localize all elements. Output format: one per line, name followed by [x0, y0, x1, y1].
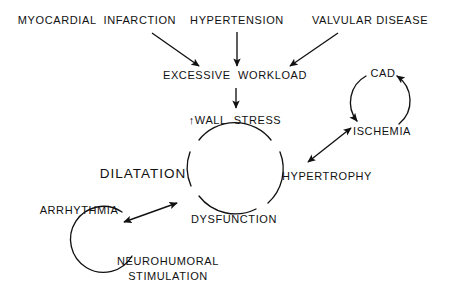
- node-myocardial-infarction: MYOCARDIAL INFARCTION: [18, 14, 176, 26]
- node-neurohumoral-stimulation-line2: STIMULATION: [128, 270, 208, 282]
- node-ischemia: ISCHEMIA: [353, 125, 411, 137]
- edge-mi-to-excessive-workload: [152, 33, 199, 66]
- node-cad: CAD: [370, 67, 395, 79]
- edge-cad-to-ischemia: [350, 76, 366, 121]
- edge-dysfunction-arrhythmia: [124, 203, 177, 222]
- cycle-arc-dilatation-to-wallstress: [187, 152, 191, 186]
- node-arrhythmia: ARRHYTHMIA: [40, 204, 119, 216]
- node-dysfunction: DYSFUNCTION: [191, 213, 277, 225]
- cycle-arc-dysfunction-to-dilatation: [199, 196, 256, 214]
- node-hypertrophy: HYPERTROPHY: [282, 170, 372, 182]
- edge-ischemia-to-cad: [397, 76, 410, 124]
- edge-valvular-disease-to-excessive-workload: [290, 33, 338, 66]
- node-dilatation: DILATATION: [100, 166, 187, 181]
- node-valvular-disease: VALVULAR DISEASE: [312, 14, 428, 26]
- node-wall-stress: ↑WALL STRESS: [189, 114, 282, 126]
- node-excessive-workload: EXCESSIVE WORKLOAD: [163, 69, 307, 81]
- node-hypertension: HYPERTENSION: [190, 14, 284, 26]
- edge-hypertrophy-ischemia: [308, 128, 351, 162]
- pathophysiology-diagram: MYOCARDIAL INFARCTION HYPERTENSION VALVU…: [0, 0, 453, 296]
- node-neurohumoral-stimulation-line1: NEUROHUMORAL: [117, 255, 219, 267]
- cycle-arc-hypertrophy-to-dysfunction: [268, 152, 283, 203]
- diagram-canvas: MYOCARDIAL INFARCTION HYPERTENSION VALVU…: [0, 0, 453, 296]
